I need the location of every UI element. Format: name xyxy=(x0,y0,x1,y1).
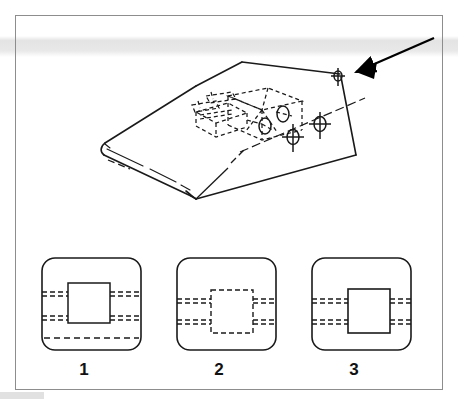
bore-circles xyxy=(259,106,289,134)
crosshair-markers xyxy=(282,68,345,152)
option-3-label: 3 xyxy=(334,360,374,380)
option-panel-2[interactable] xyxy=(177,258,276,350)
option-1-label: 1 xyxy=(64,360,104,380)
hidden-internal-assembly xyxy=(192,88,302,140)
option-3-inner-square-solid xyxy=(348,289,390,333)
option-2-label: 2 xyxy=(199,360,239,380)
option-panel-3[interactable] xyxy=(312,258,411,350)
option-2-rounded-rect xyxy=(177,258,276,350)
crosshair-marker-2 xyxy=(309,112,331,139)
view-direction-arrow xyxy=(356,38,434,79)
crosshair-marker-1 xyxy=(282,124,304,152)
figure-page: 1 2 3 xyxy=(0,0,458,407)
technical-drawing xyxy=(0,0,458,407)
option-1-inner-square-solid xyxy=(68,283,110,323)
option-panel-1[interactable] xyxy=(42,258,141,350)
